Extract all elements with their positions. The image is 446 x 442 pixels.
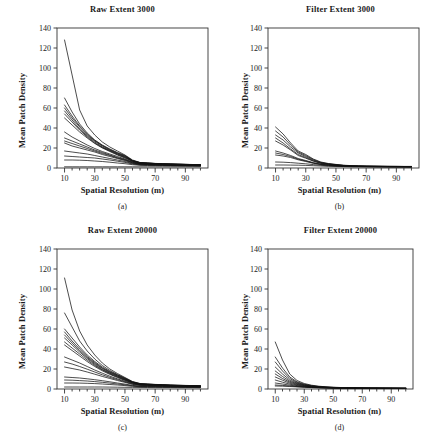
panel-sublabel-a: (a) xyxy=(0,202,223,211)
svg-text:10: 10 xyxy=(271,395,279,404)
svg-text:70: 70 xyxy=(151,395,159,404)
svg-text:70: 70 xyxy=(362,174,370,183)
svg-text:40: 40 xyxy=(43,345,51,354)
svg-text:100: 100 xyxy=(250,64,262,73)
figure-container: Raw Extent 3000 020406080100120140103050… xyxy=(0,0,446,442)
svg-text:140: 140 xyxy=(250,245,262,254)
x-axis-label-b: Spatial Resolution (m) xyxy=(223,185,446,195)
svg-text:0: 0 xyxy=(47,385,51,394)
svg-text:80: 80 xyxy=(254,305,262,314)
x-axis-label-c: Spatial Resolution (m) xyxy=(0,406,223,416)
svg-text:100: 100 xyxy=(250,285,262,294)
svg-text:10: 10 xyxy=(61,174,69,183)
chart-panel-c: Raw Extent 20000 02040608010012014010305… xyxy=(0,221,223,442)
x-axis-label-d: Spatial Resolution (m) xyxy=(223,406,446,416)
svg-text:60: 60 xyxy=(43,325,51,334)
svg-text:80: 80 xyxy=(43,305,51,314)
svg-text:40: 40 xyxy=(254,345,262,354)
svg-text:90: 90 xyxy=(387,395,395,404)
svg-text:100: 100 xyxy=(39,64,51,73)
svg-text:120: 120 xyxy=(39,44,51,53)
svg-text:90: 90 xyxy=(181,174,189,183)
chart-panel-b: Filter Extent 3000 020406080100120140103… xyxy=(223,0,446,221)
panel-sublabel-b: (b) xyxy=(223,202,446,211)
y-axis-label-a: Mean Patch Density xyxy=(17,73,27,148)
svg-text:50: 50 xyxy=(121,174,129,183)
svg-text:120: 120 xyxy=(39,265,51,274)
svg-text:0: 0 xyxy=(258,385,262,394)
svg-text:20: 20 xyxy=(43,365,51,374)
svg-text:50: 50 xyxy=(332,174,340,183)
svg-text:20: 20 xyxy=(254,365,262,374)
svg-text:30: 30 xyxy=(302,174,310,183)
svg-text:20: 20 xyxy=(254,144,262,153)
svg-text:30: 30 xyxy=(91,395,99,404)
svg-text:120: 120 xyxy=(250,265,262,274)
panel-sublabel-d: (d) xyxy=(223,423,446,432)
svg-text:30: 30 xyxy=(91,174,99,183)
y-axis-label-c: Mean Patch Density xyxy=(17,294,27,369)
svg-text:50: 50 xyxy=(329,395,337,404)
svg-text:70: 70 xyxy=(151,174,159,183)
svg-text:10: 10 xyxy=(61,395,69,404)
chart-panel-d: Filter Extent 20000 02040608010012014010… xyxy=(223,221,446,442)
svg-text:10: 10 xyxy=(272,174,280,183)
svg-text:40: 40 xyxy=(43,124,51,133)
svg-text:60: 60 xyxy=(43,104,51,113)
chart-panel-a: Raw Extent 3000 020406080100120140103050… xyxy=(0,0,223,221)
svg-text:140: 140 xyxy=(250,24,262,33)
svg-text:20: 20 xyxy=(43,144,51,153)
y-axis-label-d: Mean Patch Density xyxy=(240,294,250,369)
svg-text:0: 0 xyxy=(47,164,51,173)
x-axis-label-a: Spatial Resolution (m) xyxy=(0,185,223,195)
svg-text:40: 40 xyxy=(254,124,262,133)
svg-text:90: 90 xyxy=(181,395,189,404)
svg-text:90: 90 xyxy=(392,174,400,183)
y-axis-label-b: Mean Patch Density xyxy=(240,73,250,148)
panel-sublabel-c: (c) xyxy=(0,423,223,432)
svg-text:60: 60 xyxy=(254,325,262,334)
svg-text:60: 60 xyxy=(254,104,262,113)
svg-text:80: 80 xyxy=(254,84,262,93)
svg-text:0: 0 xyxy=(258,164,262,173)
svg-text:70: 70 xyxy=(358,395,366,404)
svg-text:120: 120 xyxy=(250,44,262,53)
svg-text:30: 30 xyxy=(300,395,308,404)
svg-text:140: 140 xyxy=(39,24,51,33)
svg-text:50: 50 xyxy=(121,395,129,404)
svg-text:80: 80 xyxy=(43,84,51,93)
svg-text:100: 100 xyxy=(39,285,51,294)
svg-text:140: 140 xyxy=(39,245,51,254)
